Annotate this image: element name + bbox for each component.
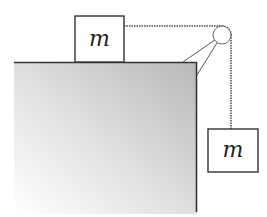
mass-block-on-table: m xyxy=(75,16,124,62)
mass-label: m xyxy=(223,137,244,162)
table xyxy=(14,62,197,214)
pulley-icon xyxy=(213,26,231,44)
mass-label: m xyxy=(89,26,110,51)
atwood-table-diagram: m m xyxy=(0,0,267,217)
hanging-mass-block: m xyxy=(208,129,258,172)
